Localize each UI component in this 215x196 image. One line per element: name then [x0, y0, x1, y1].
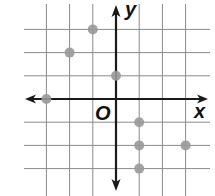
x-axis-label: x [194, 100, 205, 123]
data-point [65, 48, 75, 58]
data-point [181, 140, 191, 150]
origin-label: O [95, 102, 111, 125]
axes [25, 5, 208, 191]
data-point [134, 117, 144, 127]
data-point [88, 24, 98, 34]
data-point [111, 71, 121, 81]
coordinate-plane [0, 0, 215, 196]
data-point [134, 140, 144, 150]
y-axis-label: y [125, 0, 136, 21]
data-point [41, 94, 51, 104]
data-point [134, 164, 144, 174]
